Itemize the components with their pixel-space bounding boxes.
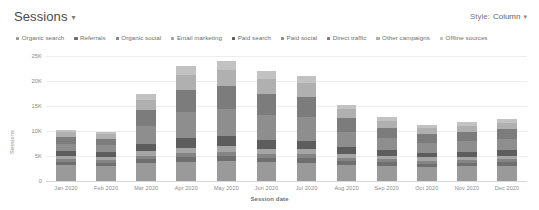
bar-segment[interactable] bbox=[176, 75, 196, 91]
page-title: Sessions bbox=[14, 9, 68, 24]
bar-segment[interactable] bbox=[257, 140, 277, 149]
bar-segment[interactable] bbox=[337, 132, 357, 148]
style-control: Style: Column ▾ bbox=[470, 12, 527, 21]
bar-segment[interactable] bbox=[176, 66, 196, 75]
y-tick-label: 15K bbox=[22, 103, 42, 109]
bar-segment[interactable] bbox=[96, 166, 116, 182]
legend-label: Offline sources bbox=[446, 35, 488, 41]
bar-segment[interactable] bbox=[217, 136, 237, 146]
bar-column[interactable] bbox=[56, 130, 76, 182]
bar-segment[interactable] bbox=[337, 118, 357, 132]
bar-segment[interactable] bbox=[297, 83, 317, 97]
legend-item-organic-search[interactable]: Organic search bbox=[16, 35, 64, 41]
chevron-down-icon: ▾ bbox=[523, 13, 527, 21]
x-tick-label: Aug 2020 bbox=[334, 185, 358, 191]
bar-segment[interactable] bbox=[176, 112, 196, 138]
bar-segment[interactable] bbox=[297, 76, 317, 83]
legend-swatch-icon bbox=[171, 37, 174, 40]
bar-column[interactable] bbox=[96, 132, 116, 181]
x-tick-label: May 2020 bbox=[214, 185, 239, 191]
y-tick-label: 5K bbox=[22, 153, 42, 159]
legend-item-direct-traffic[interactable]: Direct traffic bbox=[327, 35, 366, 41]
bar-column[interactable] bbox=[457, 122, 477, 181]
bar-column[interactable] bbox=[377, 117, 397, 181]
bar-segment[interactable] bbox=[257, 162, 277, 181]
bar-segment[interactable] bbox=[217, 109, 237, 136]
bar-segment[interactable] bbox=[217, 61, 237, 70]
bar-segment[interactable] bbox=[377, 166, 397, 182]
legend-swatch-icon bbox=[116, 37, 119, 40]
metric-selector[interactable]: Sessions ▾ bbox=[14, 9, 76, 24]
bar-segment[interactable] bbox=[56, 165, 76, 181]
legend-swatch-icon bbox=[232, 37, 235, 40]
bar-segment[interactable] bbox=[136, 110, 156, 125]
legend-label: Organic social bbox=[121, 35, 161, 41]
x-tick-label: Apr 2020 bbox=[175, 185, 198, 191]
bar-column[interactable] bbox=[337, 105, 357, 182]
legend-item-organic-social[interactable]: Organic social bbox=[116, 35, 162, 41]
bar-segment[interactable] bbox=[417, 143, 437, 153]
bar-segment[interactable] bbox=[337, 109, 357, 118]
bar-segment[interactable] bbox=[497, 139, 517, 150]
bar-column[interactable] bbox=[297, 76, 317, 181]
bar-segment[interactable] bbox=[136, 163, 156, 181]
bar-segment[interactable] bbox=[257, 115, 277, 140]
bar-column[interactable] bbox=[176, 66, 196, 181]
bar-segment[interactable] bbox=[257, 94, 277, 115]
y-tick-label: 0 bbox=[22, 178, 42, 184]
bar-segment[interactable] bbox=[136, 100, 156, 111]
x-axis-title: Session date bbox=[0, 196, 539, 202]
bar-segment[interactable] bbox=[297, 117, 317, 141]
bar-segment[interactable] bbox=[176, 90, 196, 112]
bar-segment[interactable] bbox=[217, 161, 237, 181]
bar-segment[interactable] bbox=[297, 97, 317, 117]
legend-swatch-icon bbox=[440, 37, 443, 40]
bar-segment[interactable] bbox=[457, 166, 477, 181]
y-tick-label: 10K bbox=[22, 128, 42, 134]
bar-segment[interactable] bbox=[136, 126, 156, 144]
bar-segment[interactable] bbox=[56, 137, 76, 144]
legend-item-paid-social[interactable]: Paid social bbox=[281, 35, 317, 41]
bar-segment[interactable] bbox=[257, 71, 277, 79]
style-label: Style: bbox=[470, 12, 490, 21]
bar-segment[interactable] bbox=[297, 163, 317, 182]
bar-segment[interactable] bbox=[96, 145, 116, 152]
legend-item-paid-search[interactable]: Paid search bbox=[232, 35, 271, 41]
bar-segment[interactable] bbox=[377, 128, 397, 139]
bar-segment[interactable] bbox=[417, 134, 437, 143]
legend-swatch-icon bbox=[281, 37, 284, 40]
bar-segment[interactable] bbox=[176, 162, 196, 182]
x-tick-label: Dec 2020 bbox=[495, 185, 519, 191]
bar-segment[interactable] bbox=[337, 165, 357, 182]
bar-segment[interactable] bbox=[497, 129, 517, 139]
bar-segment[interactable] bbox=[176, 138, 196, 147]
bar-segment[interactable] bbox=[217, 70, 237, 87]
x-tick-label: Oct 2020 bbox=[415, 185, 438, 191]
bar-segment[interactable] bbox=[417, 167, 437, 182]
bar-segment[interactable] bbox=[457, 132, 477, 141]
legend-item-offline-sources[interactable]: Offline sources bbox=[440, 35, 488, 41]
bar-segment[interactable] bbox=[217, 86, 237, 109]
bar-column[interactable] bbox=[257, 71, 277, 181]
bar-column[interactable] bbox=[417, 125, 437, 182]
bar-segment[interactable] bbox=[497, 166, 517, 182]
sessions-chart-card: Sessions ▾ Style: Column ▾ Organic searc… bbox=[0, 0, 539, 210]
bar-segment[interactable] bbox=[257, 79, 277, 94]
legend-item-email-marketing[interactable]: Email marketing bbox=[171, 35, 222, 41]
bar-segment[interactable] bbox=[377, 121, 397, 128]
legend-swatch-icon bbox=[74, 37, 77, 40]
legend-item-referrals[interactable]: Referrals bbox=[74, 35, 105, 41]
x-tick-label: Jan 2020 bbox=[54, 185, 77, 191]
legend-label: Referrals bbox=[80, 35, 106, 41]
bar-segment[interactable] bbox=[457, 141, 477, 152]
bar-segment[interactable] bbox=[377, 138, 397, 150]
legend-item-other-campaigns[interactable]: Other campaigns bbox=[376, 35, 430, 41]
bar-column[interactable] bbox=[217, 61, 237, 181]
bar-segment[interactable] bbox=[56, 144, 76, 152]
x-tick-label: Sep 2020 bbox=[375, 185, 399, 191]
bar-column[interactable] bbox=[497, 119, 517, 181]
bar-segment[interactable] bbox=[297, 141, 317, 150]
bar-column[interactable] bbox=[136, 94, 156, 182]
bar-segment[interactable] bbox=[136, 144, 156, 152]
style-select[interactable]: Column ▾ bbox=[493, 12, 527, 21]
